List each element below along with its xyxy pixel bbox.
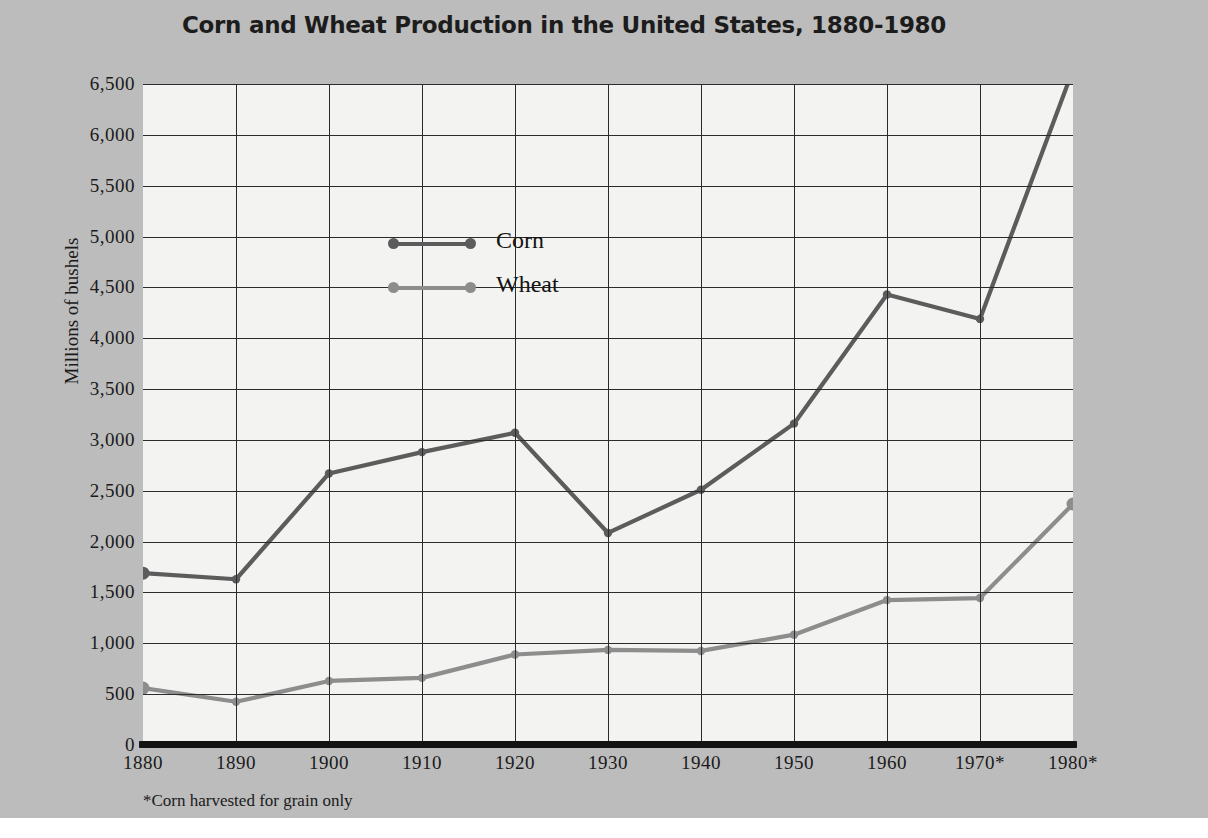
legend-entry-wheat: Wheat xyxy=(388,273,618,317)
y-tick-label-2000: 2,000 xyxy=(55,531,135,553)
gridline-x-1930 xyxy=(608,84,609,745)
legend-swatch-wheat xyxy=(388,285,476,290)
legend-label-wheat: Wheat xyxy=(496,271,559,298)
y-tick-label-6500: 6,500 xyxy=(55,73,135,95)
chart-footnote: *Corn harvested for grain only xyxy=(143,791,353,811)
x-axis-tick-labels: 1880189019001910192019301940195019601970… xyxy=(0,752,1208,782)
y-tick-label-2500: 2,500 xyxy=(55,480,135,502)
page-title: Corn and Wheat Production in the United … xyxy=(0,12,1208,38)
y-tick-label-6000: 6,000 xyxy=(55,124,135,146)
y-tick-label-500: 500 xyxy=(55,683,135,705)
y-axis-title: Millions of bushels xyxy=(61,191,83,431)
y-tick-label-3000: 3,000 xyxy=(55,429,135,451)
chart-legend: Corn Wheat xyxy=(388,229,618,317)
gridline-x-1970 xyxy=(980,84,981,745)
legend-swatch-corn xyxy=(388,241,476,246)
data-point-corn-1880 xyxy=(143,567,150,580)
gridline-x-1900 xyxy=(329,84,330,745)
y-tick-label-1000: 1,000 xyxy=(55,632,135,654)
y-tick-label-1500: 1,500 xyxy=(55,581,135,603)
data-point-wheat-1880 xyxy=(143,682,150,695)
plot-area: Corn Wheat xyxy=(143,84,1073,745)
x-axis-baseline xyxy=(139,741,1077,748)
legend-label-corn: Corn xyxy=(496,227,544,254)
gridline-x-1940 xyxy=(701,84,702,745)
gridline-x-1960 xyxy=(887,84,888,745)
gridline-x-1910 xyxy=(422,84,423,745)
gridline-x-1950 xyxy=(794,84,795,745)
x-tick-label-1980: 1980* xyxy=(1018,752,1128,774)
chart-figure: Corn and Wheat Production in the United … xyxy=(0,0,1208,838)
gridline-x-1890 xyxy=(236,84,237,745)
gridline-x-1920 xyxy=(515,84,516,745)
legend-entry-corn: Corn xyxy=(388,229,618,273)
